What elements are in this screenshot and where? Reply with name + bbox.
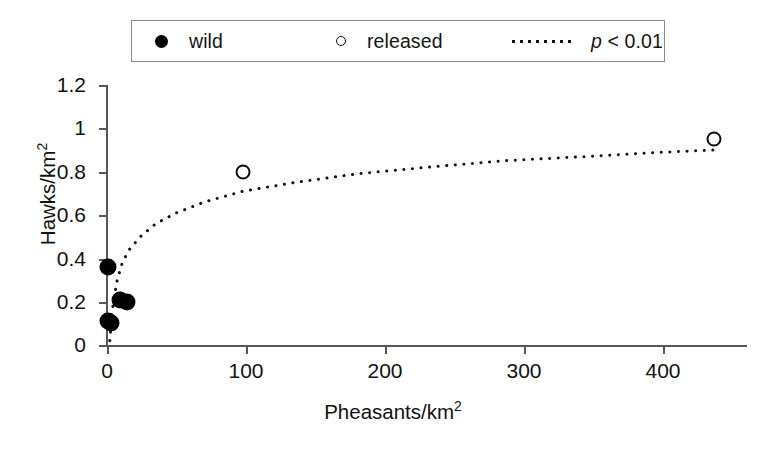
x-tick-200 [385,346,387,354]
y-ticklabel-0.2: 0.2 [26,290,86,314]
y-tick-0.6 [99,215,107,217]
data-point-wild [118,293,135,310]
hawks-pheasants-scatter-figure: wild released p < 0.01 1.2 1 0.8 0.6 0.4… [0,0,758,452]
y-tick-0.2 [99,302,107,304]
y-tick-0 [99,345,107,347]
x-tick-400 [663,346,665,354]
data-point-released [236,164,251,179]
legend-label-p-symbol: p [591,30,602,52]
x-ticklabel-300: 300 [489,359,559,383]
open-circle-icon [336,36,346,46]
x-ticklabel-200: 200 [350,359,420,383]
legend-entry-released: released [336,21,443,61]
y-axis-title-text: Hawks/km [36,151,59,246]
x-tick-100 [246,346,248,354]
y-axis-title: Hawks/km2 [36,124,60,264]
legend-entry-wild: wild [155,21,223,61]
legend-label-wild: wild [189,30,223,53]
y-ticklabel-0: 0 [26,333,86,357]
y-tick-1 [99,128,107,130]
x-axis-title-text: Pheasants/km [324,400,454,423]
chart-legend: wild released p < 0.01 [131,20,665,62]
x-axis-title: Pheasants/km2 [278,400,508,424]
data-point-wild [100,259,117,276]
x-tick-300 [524,346,526,354]
data-point-released [707,132,722,147]
dotted-line-icon [512,40,574,43]
legend-label-significance: p < 0.01 [591,30,663,53]
legend-label-p-value: < 0.01 [602,30,663,52]
x-axis-line [107,345,747,347]
data-point-wild [103,315,120,332]
x-ticklabel-0: 0 [72,359,142,383]
logarithmic-fit-curve [0,0,758,452]
y-axis-title-exponent: 2 [34,143,50,151]
y-ticklabel-1.2: 1.2 [26,73,86,97]
y-tick-0.8 [99,172,107,174]
filled-circle-icon [155,35,168,48]
x-tick-0 [107,346,109,354]
x-axis-title-exponent: 2 [454,398,462,414]
x-ticklabel-100: 100 [211,359,281,383]
x-ticklabel-400: 400 [628,359,698,383]
legend-entry-significance: p < 0.01 [512,21,663,61]
legend-label-released: released [367,30,443,53]
y-tick-1.2 [99,85,107,87]
